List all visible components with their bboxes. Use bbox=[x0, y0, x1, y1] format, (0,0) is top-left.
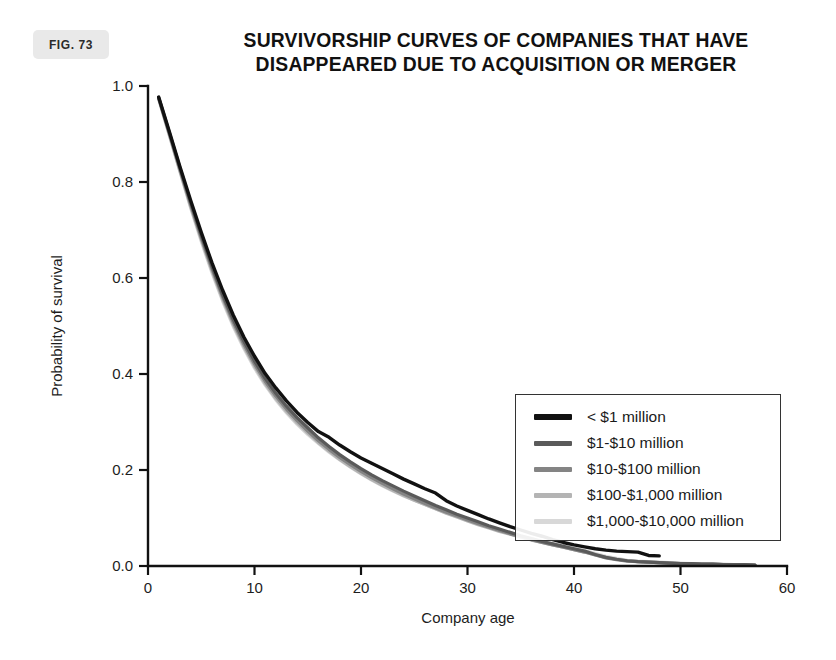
x-tick-label: 20 bbox=[353, 579, 370, 596]
y-tick-label: 0.4 bbox=[112, 365, 133, 382]
y-tick-label: 0.0 bbox=[112, 557, 133, 574]
legend-label: $1-$10 million bbox=[587, 434, 684, 452]
figure-root: FIG. 73 SURVIVORSHIP CURVES OF COMPANIES… bbox=[0, 0, 836, 660]
survivorship-line-chart: 01020304050600.00.20.40.60.81.0 Company … bbox=[0, 0, 836, 660]
legend-items: < $1 million$1-$10 million$10-$100 milli… bbox=[516, 395, 780, 540]
x-tick-label: 10 bbox=[246, 579, 263, 596]
legend-swatch bbox=[534, 414, 572, 420]
legend-item[interactable]: $10-$100 million bbox=[534, 456, 780, 482]
x-tick-label: 40 bbox=[566, 579, 583, 596]
legend-label: $10-$100 million bbox=[587, 460, 701, 478]
legend-label: $1,000-$10,000 million bbox=[587, 512, 744, 530]
legend-swatch bbox=[534, 519, 572, 524]
legend-swatch bbox=[534, 467, 572, 472]
y-tick-label: 1.0 bbox=[112, 77, 133, 94]
x-tick-label: 0 bbox=[144, 579, 152, 596]
x-tick-label: 50 bbox=[672, 579, 689, 596]
y-axis-title: Probability of survival bbox=[48, 255, 65, 397]
legend-label: $100-$1,000 million bbox=[587, 486, 722, 504]
y-tick-label: 0.8 bbox=[112, 173, 133, 190]
x-tick-label: 30 bbox=[459, 579, 476, 596]
legend-label: < $1 million bbox=[587, 408, 666, 426]
legend-swatch bbox=[534, 493, 572, 498]
legend-item[interactable]: $100-$1,000 million bbox=[534, 482, 780, 508]
x-tick-label: 60 bbox=[779, 579, 796, 596]
x-axis-title: Company age bbox=[421, 609, 514, 626]
y-tick-label: 0.6 bbox=[112, 269, 133, 286]
legend-item[interactable]: $1,000-$10,000 million bbox=[534, 508, 780, 534]
y-tick-label: 0.2 bbox=[112, 461, 133, 478]
legend-item[interactable]: $1-$10 million bbox=[534, 430, 780, 456]
legend-item[interactable]: < $1 million bbox=[534, 404, 780, 430]
legend-swatch bbox=[534, 441, 572, 446]
chart-legend: < $1 million$1-$10 million$10-$100 milli… bbox=[515, 394, 781, 541]
